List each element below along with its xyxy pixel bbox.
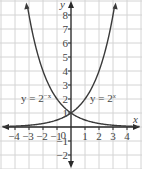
y-tick-label: 4 — [63, 65, 69, 77]
y-tick-label: 5 — [63, 51, 69, 63]
x-tick-label: 1 — [82, 130, 88, 142]
x-tick-label: −4 — [8, 130, 20, 142]
y-axis-up-arrow-icon — [68, 1, 74, 8]
equation-label-2-neg-x: y = 2−x — [21, 92, 52, 104]
x-tick-label: 4 — [124, 130, 130, 142]
x-tick-label: −3 — [22, 130, 34, 142]
x-tick-label: 3 — [110, 130, 116, 142]
y-axis-label: y — [59, 0, 65, 10]
y-tick-label: 1 — [63, 107, 69, 119]
labels: −4−3−2−11234−2−1123456780xyy = 2−xy = 2x — [8, 0, 138, 161]
y-tick-label: 3 — [63, 79, 69, 91]
curve-2-x — [2, 7, 114, 127]
origin-label: 0 — [61, 129, 67, 141]
y-axis-down-arrow-icon — [68, 161, 74, 168]
y-tick-label: −2 — [56, 149, 68, 161]
y-tick-label: 8 — [63, 9, 69, 21]
x-axis-label: x — [132, 113, 138, 125]
x-tick-label: −2 — [36, 130, 48, 142]
y-tick-label: 7 — [63, 23, 69, 35]
exponential-graph: −4−3−2−11234−2−1123456780xyy = 2−xy = 2x — [0, 0, 142, 169]
y-tick-label: 6 — [63, 37, 69, 49]
x-tick-label: 2 — [96, 130, 102, 142]
y-tick-label: 2 — [63, 93, 69, 105]
curve-2-neg-x — [28, 7, 140, 127]
equation-label-2-x: y = 2x — [90, 92, 117, 104]
